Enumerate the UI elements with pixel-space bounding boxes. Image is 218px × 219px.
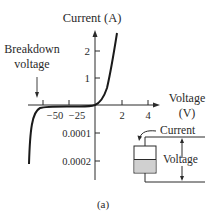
current-arrowhead-icon xyxy=(138,136,143,142)
y-tick-label-2: 2 xyxy=(85,45,91,57)
annotation-line1: Breakdown xyxy=(4,42,59,56)
inset-component-fill xyxy=(135,160,156,173)
x-tick-label-4: 4 xyxy=(145,110,151,121)
voltage-arrow-down-icon xyxy=(180,176,184,181)
figure-caption: (a) xyxy=(97,198,110,211)
y-axis-label: Current (A) xyxy=(63,11,122,25)
y-tick-label-1: 1 xyxy=(85,72,91,84)
y-tick-label-0.0002: 0.0002 xyxy=(62,156,91,167)
current-arrow-icon xyxy=(140,131,156,137)
diode-iv-diagram: Current (A) Breakdown voltage Voltage (V… xyxy=(0,0,218,219)
x-axis-label-line1: Voltage xyxy=(169,91,205,105)
x-tick-label-2: 2 xyxy=(119,110,124,121)
x-tick-label-neg25: −25 xyxy=(69,110,85,121)
y-axis-arrow-icon xyxy=(93,30,98,37)
breakdown-arrow-icon xyxy=(35,77,39,98)
y-tick-label-0.0001: 0.0001 xyxy=(62,128,91,139)
x-axis-arrow-icon xyxy=(153,103,160,108)
inset-voltage-label: Voltage xyxy=(163,153,198,166)
annotation-line2: voltage xyxy=(14,57,49,71)
voltage-arrow-up-icon xyxy=(180,138,184,143)
x-axis-label-line2: (V) xyxy=(179,106,196,120)
x-tick-label-neg50: −50 xyxy=(47,110,63,121)
inset-current-label: Current xyxy=(160,124,196,136)
